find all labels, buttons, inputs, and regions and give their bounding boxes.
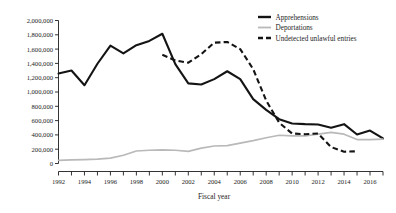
x-axis-tick-label: 2004 [208,178,222,185]
y-axis-tick-label: 200,000 [32,146,54,153]
y-axis-tick-label: 800,000 [32,103,54,110]
series-line-deportations [59,132,384,160]
x-axis-tick-label: 2002 [182,178,195,185]
line-chart: 0200,000400,000600,000800,0001,000,0001,… [0,0,396,213]
x-axis-title: Fiscal year [198,192,231,201]
legend-label-1: Deportations [276,24,313,32]
x-axis-tick-label: 2006 [234,178,248,185]
legend-label-2: Undetected unlawful entries [276,35,357,43]
series-line-undetected-unlawful-entries [162,42,357,152]
chart-container: 0200,000400,000600,000800,0001,000,0001,… [0,0,396,213]
y-axis-tick-label: 1,000,000 [27,88,54,95]
x-axis-tick-label: 1994 [78,178,92,185]
x-axis-tick-label: 2014 [337,178,351,185]
y-axis-tick-label: 600,000 [32,117,54,124]
x-axis-tick-label: 2012 [312,178,325,185]
x-axis-tick-label: 1996 [104,178,118,185]
y-axis-tick-label: 0 [50,160,54,167]
x-axis: 1992199419961998200020022004200620082010… [52,172,383,185]
x-axis-tick-label: 2008 [260,178,274,185]
chart-legend: ApprehensionsDeportationsUndetected unla… [258,14,357,43]
x-axis-tick-label: 2000 [156,178,170,185]
y-axis-tick-label: 1,400,000 [27,60,54,67]
y-axis-tick-label: 400,000 [32,131,54,138]
x-axis-tick-label: 2016 [363,178,377,185]
y-axis: 0200,000400,000600,000800,0001,000,0001,… [27,17,59,167]
series-line-apprehensions [59,34,384,139]
y-axis-tick-label: 1,800,000 [27,31,54,38]
y-axis-tick-label: 1,600,000 [27,46,54,53]
y-axis-tick-label: 2,000,000 [27,17,54,24]
x-axis-tick-label: 1998 [130,178,144,185]
series-layer [59,34,384,161]
y-axis-tick-label: 1,200,000 [27,74,54,81]
legend-label-0: Apprehensions [276,14,319,22]
x-axis-tick-label: 2010 [286,178,300,185]
x-axis-tick-label: 1992 [52,178,65,185]
